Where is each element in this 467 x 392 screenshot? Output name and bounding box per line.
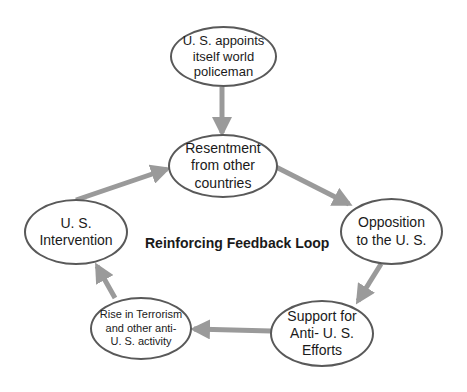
node-label: Resentment from other countries (185, 140, 260, 191)
arrow-rise-to-intervention (97, 266, 115, 298)
node-label: Rise in Terrorism and other anti- U. S. … (100, 308, 182, 348)
node-label: Opposition to the U. S. (356, 214, 426, 248)
node-intervention: U. S. Intervention (24, 199, 128, 265)
node-us-appoints: U. S. appoints itself world policeman (170, 26, 277, 87)
arrow-support-to-rise (194, 329, 271, 331)
node-support: Support for Anti- U. S. Efforts (270, 300, 374, 367)
node-resentment: Resentment from other countries (168, 134, 278, 198)
arrow-resentment-to-opposition (276, 167, 349, 204)
arrow-intervention-to-resentment (76, 169, 167, 200)
node-label: U. S. appoints itself world policeman (183, 33, 265, 81)
node-opposition: Opposition to the U. S. (340, 198, 443, 265)
node-rise: Rise in Terrorism and other anti- U. S. … (90, 297, 192, 360)
diagram-title: Reinforcing Feedback Loop (145, 235, 329, 251)
node-label: U. S. Intervention (39, 215, 112, 249)
node-label: Support for Anti- U. S. Efforts (287, 308, 356, 359)
arrow-opposition-to-support (358, 264, 381, 301)
